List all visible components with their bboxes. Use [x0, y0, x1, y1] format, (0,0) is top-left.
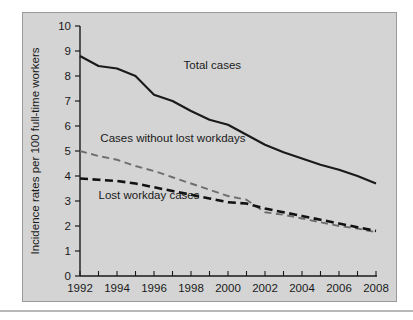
figure-root: 0123456789101992199419961998200020022004… [0, 0, 413, 320]
bottom-divider-rule [0, 310, 413, 312]
x-tick-label: 2008 [363, 282, 389, 294]
x-tick-label: 2000 [215, 282, 241, 294]
y-tick-label: 1 [65, 245, 71, 257]
x-tick-label: 1996 [141, 282, 167, 294]
y-tick-label: 5 [65, 145, 71, 157]
x-tick-label: 2002 [252, 282, 278, 294]
y-tick-label: 0 [65, 270, 71, 282]
x-tick-label: 1992 [67, 282, 93, 294]
y-tick-label: 8 [65, 70, 71, 82]
series-line-lost-workday-cases [80, 179, 376, 232]
series-label-cases-without-lost-workdays: Cases without lost workdays [100, 132, 245, 144]
series-label-lost-workday-cases: Lost workday cases [99, 189, 200, 201]
x-tick-label: 1994 [104, 282, 130, 294]
y-tick-label: 2 [65, 220, 71, 232]
y-tick-label: 10 [58, 20, 71, 32]
x-tick-label: 2004 [289, 282, 315, 294]
x-tick-label: 2006 [326, 282, 352, 294]
y-tick-label: 7 [65, 95, 71, 107]
chart-panel: 0123456789101992199419961998200020022004… [22, 12, 397, 302]
series-label-total-cases: Total cases [184, 59, 242, 71]
y-tick-label: 9 [65, 45, 71, 57]
series-line-total-cases [80, 56, 376, 184]
y-tick-label: 3 [65, 195, 71, 207]
y-tick-label: 6 [65, 120, 71, 132]
x-tick-label: 1998 [178, 282, 204, 294]
y-axis-title: Incidence rates per 100 full-time worker… [29, 47, 41, 254]
chart-svg: 0123456789101992199419961998200020022004… [23, 13, 398, 303]
y-tick-label: 4 [65, 170, 72, 182]
